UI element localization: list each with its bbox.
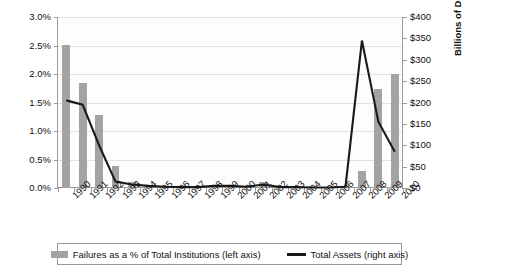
y-tick-right	[403, 145, 407, 146]
x-axis-label-2006: 2006	[333, 193, 341, 201]
line-swatch-icon	[287, 253, 306, 256]
y-axis-right-tick-label: $400	[410, 12, 456, 22]
legend-label-failures: Failures as a % of Total Institutions (l…	[73, 249, 261, 260]
x-axis-label-2002: 2002	[267, 193, 275, 201]
x-axis-label-2008: 2008	[366, 193, 374, 201]
x-axis-label-1998: 1998	[202, 193, 210, 201]
y-axis-left-tick-label: 3.0%	[3, 12, 51, 22]
y-tick-right	[403, 60, 407, 61]
x-axis-label-1995: 1995	[152, 193, 160, 201]
total-assets-line	[66, 41, 395, 188]
x-axis-label-2007: 2007	[350, 193, 358, 201]
y-axis-right-tick-label: $300	[410, 55, 456, 65]
x-axis-label-1999: 1999	[218, 193, 226, 201]
x-axis-label-1993: 1993	[120, 193, 128, 201]
legend-item-failures: Failures as a % of Total Institutions (l…	[51, 249, 261, 260]
y-axis-left-tick-label: 1.0%	[3, 126, 51, 136]
x-axis-label-2005: 2005	[317, 193, 325, 201]
y-axis-right-tick-label: $200	[410, 98, 456, 108]
x-tick	[58, 188, 59, 192]
legend-label-total-assets: Total Assets (right axis)	[311, 249, 409, 260]
y-axis-left-tick-label: 1.5%	[3, 98, 51, 108]
y-axis-right-tick-label: $350	[410, 33, 456, 43]
chart-legend: Failures as a % of Total Institutions (l…	[57, 243, 402, 265]
x-axis-label-2003: 2003	[284, 193, 292, 201]
x-axis-label-1990: 1990	[70, 193, 78, 201]
legend-item-total-assets: Total Assets (right axis)	[287, 249, 409, 260]
right-axis-line	[402, 17, 403, 189]
y-axis-left-tick-label: 2.0%	[3, 69, 51, 79]
x-axis-label-2004: 2004	[300, 193, 308, 201]
y-axis-left-tick-label: 2.5%	[3, 41, 51, 51]
y-axis-left-tick-label: 0.5%	[3, 155, 51, 165]
y-tick-right	[403, 17, 407, 18]
x-axis-label-1996: 1996	[169, 193, 177, 201]
y-tick-right	[403, 81, 407, 82]
x-axis-label-1997: 1997	[185, 193, 193, 201]
x-axis-label-1992: 1992	[103, 193, 111, 201]
x-axis-label-2010: 2010	[399, 193, 407, 201]
x-axis-label-2000: 2000	[235, 193, 243, 201]
x-axis-label-2001: 2001	[251, 193, 259, 201]
y-tick-right	[403, 38, 407, 39]
x-axis-label-1994: 1994	[136, 193, 144, 201]
x-axis-label-1991: 1991	[87, 193, 95, 201]
chart-container: 0.0%0.5%1.0%1.5%2.0%2.5%3.0% $0$50$100$1…	[0, 0, 519, 274]
y-axis-right-title: Billions of Dollars	[452, 0, 463, 56]
line-series-layer	[58, 17, 402, 188]
y-axis-right-tick-label: $150	[410, 119, 456, 129]
y-tick-right	[403, 124, 407, 125]
bar-swatch-icon	[51, 251, 68, 258]
x-axis-label-2009: 2009	[382, 193, 390, 201]
y-axis-right-tick-label: $50	[410, 162, 456, 172]
y-tick-right	[403, 167, 407, 168]
y-tick-right	[403, 103, 407, 104]
x-axis-labels: 1990199119921993199419951996199719981999…	[0, 193, 519, 233]
y-axis-right-tick-label: $250	[410, 76, 456, 86]
y-axis-left-tick-label: 0.0%	[3, 183, 51, 193]
y-axis-right-tick-label: $100	[410, 140, 456, 150]
